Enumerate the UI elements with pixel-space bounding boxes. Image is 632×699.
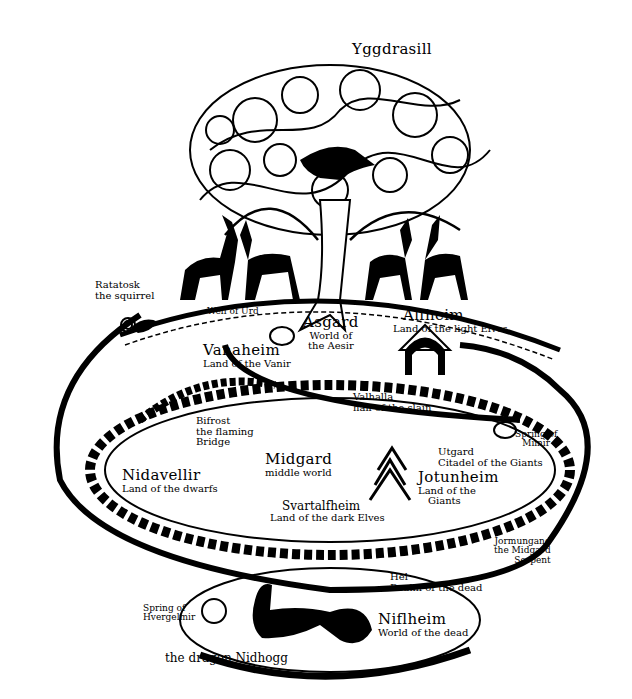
label-bifrost: Bifrost the flaming Bridge xyxy=(196,416,254,448)
alfheim-desc: Land of the light Elves xyxy=(393,324,508,335)
hel-desc: Realm of the dead xyxy=(390,583,482,594)
ratatosk-desc: the squirrel xyxy=(95,291,154,302)
vanaheim-desc: Land of the Vanir xyxy=(203,359,291,370)
mountains xyxy=(370,448,410,500)
svartalfheim-desc: Land of the dark Elves xyxy=(270,513,385,524)
alfheim-name: Alfheim xyxy=(393,308,508,324)
jotunheim-name: Jotunheim xyxy=(418,470,499,486)
utgard-name: Utgard xyxy=(438,447,543,458)
jormungand-line3: Serpent xyxy=(494,556,551,565)
valhalla-name: Valhalla xyxy=(353,392,431,403)
label-midgard: Midgard middle world xyxy=(265,452,332,478)
hvergelmir-line2: Hvergelmir xyxy=(143,613,195,622)
label-vanaheim: Vanaheim Land of the Vanir xyxy=(203,343,291,369)
asgard-name: Asgard xyxy=(303,315,359,331)
label-jormungand: Jormungand the Midgard Serpent xyxy=(494,537,551,565)
bifrost-name: Bifrost xyxy=(196,416,254,427)
midgard-name: Midgard xyxy=(265,452,332,468)
label-well-of-urd: Well of Urd xyxy=(207,307,259,316)
label-nidhogg: the dragon Nidhogg xyxy=(165,652,288,665)
label-asgard: Asgard World of the Aesir xyxy=(303,315,359,352)
ratatosk-name: Ratatosk xyxy=(95,280,154,291)
label-valhalla: Valhalla hall of the slain xyxy=(353,392,431,413)
utgard-desc: Citadel of the Giants xyxy=(438,458,543,469)
label-svartalfheim: Svartalfheim Land of the dark Elves xyxy=(270,500,385,523)
label-nidavellir: Nidavellir Land of the dwarfs xyxy=(122,468,218,494)
nidavellir-desc: Land of the dwarfs xyxy=(122,484,218,495)
niflheim-desc: World of the dead xyxy=(378,628,468,639)
valhalla-desc: hall of the slain xyxy=(353,403,431,414)
midgard-desc: middle world xyxy=(265,468,332,479)
vanaheim-name: Vanaheim xyxy=(203,343,291,359)
title-yggdrasill: Yggdrasill xyxy=(352,42,432,58)
label-hel: Hel Realm of the dead xyxy=(390,572,482,593)
asgard-desc2: the Aesir xyxy=(303,341,359,352)
label-jotunheim: Jotunheim Land of the Giants xyxy=(418,470,499,507)
dragon-nidhogg xyxy=(253,584,372,643)
bifrost-desc2: Bridge xyxy=(196,437,254,448)
niflheim-name: Niflheim xyxy=(378,612,468,628)
label-utgard: Utgard Citadel of the Giants xyxy=(438,447,543,468)
label-ratatosk: Ratatosk the squirrel xyxy=(95,280,154,301)
label-spring-of-hvergelmir: Spring of Hvergelmir xyxy=(143,604,195,623)
jotunheim-desc2: Giants xyxy=(418,496,499,507)
label-niflheim: Niflheim World of the dead xyxy=(378,612,468,638)
svartalfheim-name: Svartalfheim xyxy=(270,500,385,513)
hel-name: Hel xyxy=(390,572,482,583)
nidavellir-name: Nidavellir xyxy=(122,468,218,484)
label-alfheim: Alfheim Land of the light Elves xyxy=(393,308,508,334)
